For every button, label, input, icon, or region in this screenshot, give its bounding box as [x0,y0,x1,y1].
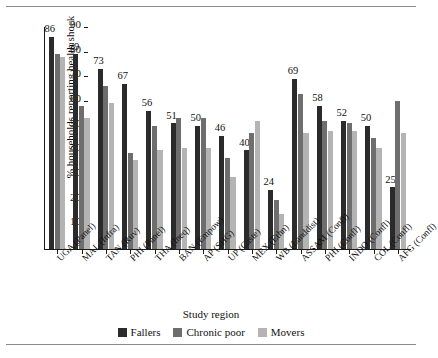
x-axis-title: Study region [0,308,422,320]
bar-group: 50 [191,27,215,249]
bar-group: 69 [288,27,312,249]
bar-group: 40 [240,27,264,249]
bar-value-label: 40 [239,138,250,149]
bar-group: 79 [69,27,93,249]
bar-fallers [365,126,370,249]
bar-group: 24 [264,27,288,249]
figure-bottom-rule [6,344,416,345]
bar-group: 67 [118,27,142,249]
bar-value-label: 73 [93,56,104,67]
bar-movers [60,57,65,249]
bar-fallers [171,123,176,249]
bar-group: 51 [167,27,191,249]
bar-fallers [98,69,103,249]
bar-chronic [103,86,108,249]
bar-value-label: 51 [166,111,177,122]
bar-value-label: 79 [69,42,80,53]
bar-group: 56 [142,27,166,249]
bar-group: 50 [361,27,385,249]
bar-fallers [195,126,200,249]
legend-item: Movers [258,326,305,338]
bar-value-label: 58 [312,93,323,104]
bar-fallers [49,37,54,249]
bar-group: 25 [386,27,410,249]
bar-value-label: 24 [263,177,274,188]
bar-groups: 867973675651504640246958525025 [45,27,410,249]
bar-value-label: 50 [361,113,372,124]
legend-swatch-movers [258,328,267,337]
bar-value-label: 25 [385,175,396,186]
legend-label: Movers [271,326,305,338]
bar-group: 73 [94,27,118,249]
legend-swatch-chronic [173,328,182,337]
legend-swatch-fallers [118,328,127,337]
legend-item: Fallers [118,326,161,338]
legend-label: Chronic poor [186,326,244,338]
bar-value-label: 50 [190,113,201,124]
bar-value-label: 56 [142,98,153,109]
bar-value-label: 67 [117,71,128,82]
bar-value-label: 52 [336,108,347,119]
chart-legend: FallersChronic poorMovers [0,326,422,338]
bar-fallers [317,106,322,249]
bar-chronic [55,54,60,249]
bar-value-label: 69 [288,66,299,77]
legend-label: Fallers [131,326,161,338]
bar-value-label: 46 [215,123,226,134]
bar-fallers [341,121,346,249]
bar-fallers [73,54,78,249]
bar-fallers [146,111,151,249]
bar-group: 86 [45,27,69,249]
bar-fallers [292,79,297,249]
bar-value-label: 86 [44,24,55,35]
bar-group: 58 [313,27,337,249]
legend-item: Chronic poor [173,326,244,338]
bar-fallers [122,84,127,249]
bar-chronic [298,94,303,249]
